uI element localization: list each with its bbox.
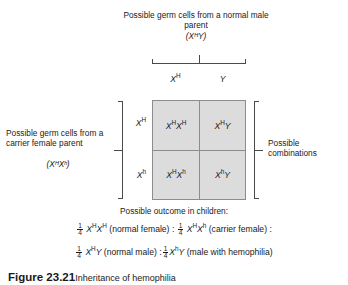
- column-header-1-allele: Y: [220, 74, 226, 84]
- gene-base: Y: [96, 247, 102, 257]
- top-parent-genotype: (XᴴY): [118, 31, 274, 41]
- left-bracket-tick-bottom: [118, 198, 123, 199]
- punnett-cell-1-1-genotype: XhY: [215, 170, 230, 180]
- column-header-1: Y: [199, 74, 246, 84]
- outcome-item-0: 14 XHXH (normal female) :: [76, 224, 174, 234]
- fraction-denominator: 4: [76, 252, 82, 260]
- outcome-item-0-fraction: 14: [77, 223, 83, 237]
- punnett-cell-0-1-genotype: XHY: [214, 121, 230, 131]
- left-bracket: [114, 101, 123, 199]
- outcome-line-1: 14 XHY (normal male) :14XhY (male with h…: [0, 246, 348, 260]
- column-header-0-sup: H: [176, 72, 181, 79]
- outcome-item-3-fraction: 14: [163, 246, 169, 260]
- row-header-0-sup: H: [141, 116, 146, 123]
- outcome-item-3: 14XhY (male with hemophilia): [162, 247, 273, 257]
- right-bracket: [254, 101, 263, 199]
- fraction-numerator: 1: [163, 246, 169, 253]
- row-header-1: Xh: [126, 170, 146, 180]
- gene-sup: H: [102, 223, 107, 230]
- gene-base: Y: [179, 247, 185, 257]
- punnett-cell-1-0: XHXh: [153, 150, 199, 199]
- figure-caption-number: Figure 23.21: [8, 271, 75, 283]
- outcome-item-2-description: (normal male): [104, 247, 157, 257]
- column-header-0: XH: [152, 74, 199, 84]
- punnett-square-grid: XHXH XHY XHXh XhY: [152, 100, 246, 200]
- row-header-0-allele: XH: [136, 118, 146, 128]
- outcome-item-0-genotype: XHXH: [86, 224, 107, 234]
- column-header-1-base: Y: [220, 74, 226, 84]
- figure-caption-text: Inheritance of hemophilia: [75, 273, 176, 283]
- fraction-denominator: 4: [178, 229, 184, 237]
- fraction-numerator: 1: [76, 246, 82, 253]
- fraction-denominator: 4: [77, 229, 83, 237]
- row-header-1-allele: Xh: [137, 170, 146, 180]
- punnett-cell-1-1: XhY: [199, 150, 245, 199]
- gene-sup: h: [182, 168, 186, 175]
- top-bracket: [152, 55, 246, 64]
- outcome-item-2-genotype: XHY: [85, 247, 101, 257]
- right-bracket-tick-bottom: [254, 198, 259, 199]
- gene-base: Y: [225, 121, 231, 131]
- left-parent-label: Possible germ cells from a carrier femal…: [6, 128, 110, 149]
- outcome-item-2: 14 XHY (normal male) :: [75, 247, 161, 257]
- right-bracket-stem: [254, 150, 263, 151]
- outcome-item-3-description: (male with hemophilia): [187, 247, 273, 257]
- outcome-line-0: 14 XHXH (normal female) : 14 XHXh (carri…: [0, 223, 348, 237]
- gene-sup: h: [203, 223, 207, 230]
- row-header-1-sup: h: [142, 168, 146, 175]
- punnett-cell-0-0: XHXH: [153, 101, 199, 150]
- figure-caption: Figure 23.21Inheritance of hemophilia: [8, 271, 348, 284]
- right-bracket-tick-top: [254, 101, 259, 102]
- outcome-item-0-description: (normal female): [109, 224, 169, 234]
- outcome-item-0-separator: :: [172, 224, 174, 234]
- top-parent-label: Possible germ cells from a normal male p…: [118, 10, 274, 31]
- outcome-heading: Possible outcome in children:: [0, 206, 348, 216]
- outcome-item-1: 14 XHXh (carrier female) :: [177, 224, 272, 234]
- column-header-0-allele: XH: [170, 74, 180, 84]
- punnett-cell-0-0-genotype: XHXH: [166, 121, 187, 131]
- outcome-item-1-separator: :: [269, 224, 271, 234]
- outcome-item-1-description: (carrier female): [209, 224, 267, 234]
- top-bracket-tick-left: [152, 59, 153, 64]
- gene-sup: H: [182, 119, 187, 126]
- possible-combinations-label: Possible combinations: [268, 138, 342, 159]
- punnett-cell-1-0-genotype: XHXh: [166, 170, 186, 180]
- row-header-0: XH: [126, 118, 146, 128]
- fraction-denominator: 4: [163, 252, 169, 260]
- left-bracket-tick-top: [118, 101, 123, 102]
- punnett-cell-0-1: XHY: [199, 101, 245, 150]
- fraction-numerator: 1: [77, 223, 83, 230]
- outcome-item-1-fraction: 14: [178, 223, 184, 237]
- gene-base: Y: [224, 170, 230, 180]
- outcome-item-3-genotype: XhY: [169, 247, 184, 257]
- outcome-item-2-fraction: 14: [76, 246, 82, 260]
- punnett-square-figure: Possible germ cells from a normal male p…: [0, 0, 348, 285]
- outcome-item-1-genotype: XHXh: [187, 224, 207, 234]
- top-bracket-stem: [199, 55, 200, 63]
- top-bracket-bar: [152, 63, 246, 64]
- left-parent-genotype: (XᴴXʰ): [6, 159, 110, 169]
- fraction-numerator: 1: [178, 223, 184, 230]
- top-bracket-tick-right: [245, 59, 246, 64]
- left-bracket-stem: [114, 150, 123, 151]
